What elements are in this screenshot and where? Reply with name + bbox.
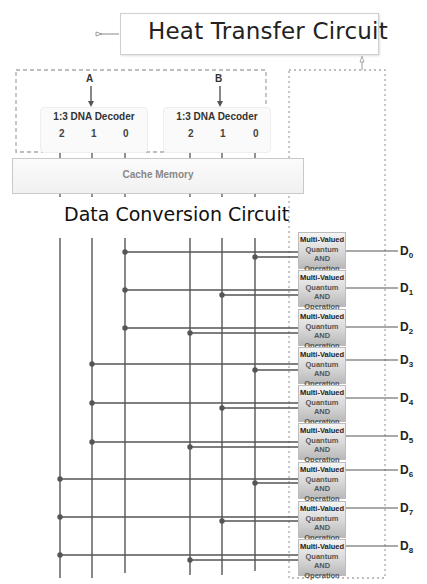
quantum-and-gate-1: Multi-ValuedQuantum ANDOperation <box>298 270 346 307</box>
input-b-label: B <box>215 73 222 84</box>
cache-memory-box: Cache Memory <box>12 158 304 194</box>
output-d4: D4 <box>400 391 413 407</box>
quantum-and-gate-3: Multi-ValuedQuantum ANDOperation <box>298 347 346 384</box>
output-d7: D7 <box>400 501 413 517</box>
output-d0: D0 <box>400 244 413 260</box>
quantum-and-gate-5: Multi-ValuedQuantum ANDOperation <box>298 423 346 460</box>
output-d8: D8 <box>400 539 413 555</box>
decoder-label: 1:3 DNA Decoder <box>164 111 270 122</box>
data-conversion-title: Data Conversion Circuit <box>64 203 289 225</box>
decoder-output: 2 <box>59 128 65 139</box>
output-d3: D3 <box>400 353 413 369</box>
output-d1: D1 <box>400 281 413 297</box>
decoder-output: 0 <box>123 128 129 139</box>
cache-memory-label: Cache Memory <box>13 169 303 180</box>
decoder-output: 2 <box>188 128 194 139</box>
output-d6: D6 <box>400 463 413 479</box>
quantum-and-gate-7: Multi-ValuedQuantum ANDOperation <box>298 501 346 538</box>
output-d2: D2 <box>400 320 413 336</box>
quantum-and-gate-6: Multi-ValuedQuantum ANDOperation <box>298 462 346 499</box>
output-d5: D5 <box>400 429 413 445</box>
input-a-label: A <box>86 73 93 84</box>
quantum-and-gate-4: Multi-ValuedQuantum ANDOperation <box>298 385 346 422</box>
decoder-output: 1 <box>220 128 226 139</box>
decoder-output: 1 <box>91 128 97 139</box>
dna-decoder-a: 1:3 DNA Decoder 2 1 0 <box>40 107 148 153</box>
heat-transfer-title: Heat Transfer Circuit <box>148 18 388 44</box>
wiring <box>0 0 427 584</box>
decoder-label: 1:3 DNA Decoder <box>41 111 147 122</box>
quantum-and-gate-0: Multi-ValuedQuantum ANDOperation <box>298 232 346 269</box>
decoder-output: 0 <box>253 128 259 139</box>
dna-decoder-b: 1:3 DNA Decoder 2 1 0 <box>163 107 271 153</box>
quantum-and-gate-8: Multi-ValuedQuantum ANDOperation <box>298 539 346 576</box>
quantum-and-gate-2: Multi-ValuedQuantum ANDOperation <box>298 309 346 346</box>
